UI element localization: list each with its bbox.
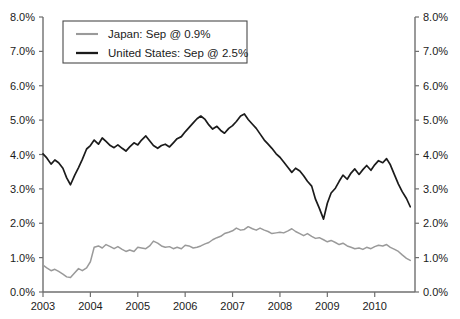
legend-label-united-states: United States: Sep @ 2.5% (108, 47, 248, 59)
right-tick-label: 1.0% (423, 252, 448, 264)
right-tick-label: 8.0% (423, 11, 448, 23)
legend-label-japan: Japan: Sep @ 0.9% (108, 28, 210, 40)
chart-legend: Japan: Sep @ 0.9%United States: Sep @ 2.… (63, 21, 248, 63)
right-tick-label: 5.0% (423, 114, 448, 126)
x-tick-label: 2009 (315, 300, 339, 312)
left-tick-label: 8.0% (10, 11, 35, 23)
left-tick-label: 3.0% (10, 183, 35, 195)
line-chart: 0.0%1.0%2.0%3.0%4.0%5.0%6.0%7.0%8.0% 0.0… (0, 0, 460, 319)
x-tick-label: 2006 (173, 300, 197, 312)
x-tick-label: 2010 (362, 300, 386, 312)
left-tick-label: 0.0% (10, 286, 35, 298)
right-tick-label: 6.0% (423, 80, 448, 92)
left-tick-label: 4.0% (10, 149, 35, 161)
right-tick-label: 0.0% (423, 286, 448, 298)
left-tick-label: 1.0% (10, 252, 35, 264)
left-tick-label: 7.0% (10, 45, 35, 57)
right-tick-label: 7.0% (423, 45, 448, 57)
left-tick-label: 2.0% (10, 217, 35, 229)
chart-container: 0.0%1.0%2.0%3.0%4.0%5.0%6.0%7.0%8.0% 0.0… (0, 0, 460, 319)
right-tick-label: 2.0% (423, 217, 448, 229)
right-tick-label: 3.0% (423, 183, 448, 195)
x-tick-label: 2008 (268, 300, 292, 312)
left-tick-label: 5.0% (10, 114, 35, 126)
x-tick-label: 2004 (78, 300, 102, 312)
x-tick-label: 2007 (220, 300, 244, 312)
left-tick-label: 6.0% (10, 80, 35, 92)
x-tick-label: 2005 (126, 300, 150, 312)
right-tick-label: 4.0% (423, 149, 448, 161)
x-tick-label: 2003 (31, 300, 55, 312)
